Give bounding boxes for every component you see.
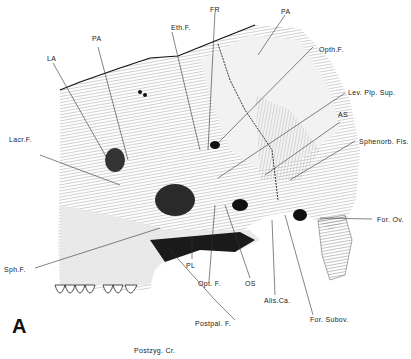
skull-illustration [0, 0, 411, 359]
label-pa-top: PA [281, 8, 290, 16]
label-lacr-f: Lacr.F. [9, 136, 32, 144]
skull-body [55, 25, 360, 293]
label-postpal-f: Postpal. F. [195, 320, 231, 328]
label-eth-f: Eth.F. [171, 24, 191, 32]
label-for-subov: For. Subov. [310, 316, 349, 324]
label-fr: FR [210, 6, 220, 14]
label-as: AS [338, 111, 348, 119]
label-la: LA [47, 55, 56, 63]
label-opth-f: Opth.F. [319, 46, 344, 54]
label-pa-left: PA [92, 35, 101, 43]
caption-postzyg: Postzyg. Cr. [134, 347, 175, 354]
label-sphenorb-fis: Sphenorb. Fis. [359, 138, 409, 146]
label-alis-ca: Alis.Ca. [264, 297, 291, 305]
label-opt-f: Opt. F. [198, 280, 221, 288]
panel-label: A [12, 315, 26, 338]
label-lev-plp-sup: Lev. Plp. Sup. [348, 89, 395, 97]
label-sph-f: Sph.F. [4, 266, 26, 274]
label-for-ov: For. Ov. [377, 216, 404, 224]
label-pl: PL [186, 262, 195, 270]
label-os: OS [245, 280, 256, 288]
